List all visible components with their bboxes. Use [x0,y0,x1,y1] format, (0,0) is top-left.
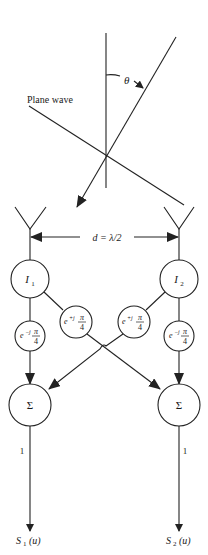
output-label-1: S 1 (u) [16,535,41,548]
butler-matrix-diagram: θ Plane wave d = λ/2 I 1 I 2 e −j π 4 [0,0,208,555]
svg-text:e: e [169,331,173,340]
gain-label-1: 1 [20,446,25,456]
phase-shifter-right-cross: e +j π 4 [118,306,150,338]
summer-node-1: Σ [9,384,51,426]
arrow-left-cross-to-sum2 [87,334,160,389]
plane-wave-geometry: θ Plane wave [27,33,184,207]
svg-text:4: 4 [80,323,84,332]
summer-node-2: Σ [158,384,200,426]
spacing-label: d = λ/2 [93,232,122,243]
phase-shifter-left-straight: e −j π 4 [15,321,45,351]
angle-pointer-arrow [134,81,143,88]
svg-text:S: S [166,535,171,546]
svg-text:(u): (u) [179,535,191,547]
element-node-I2: I 2 [160,260,198,298]
svg-text:2: 2 [180,280,184,288]
output-label-2: S 2 (u) [166,535,191,548]
svg-text:−j: −j [174,329,180,335]
gain-label-2: 1 [183,446,188,456]
angle-arc [106,75,120,76]
svg-text:1: 1 [23,540,27,548]
svg-text:4: 4 [34,337,38,346]
svg-text:S: S [16,535,21,546]
svg-text:4: 4 [183,337,187,346]
antenna-right-icon [164,207,194,260]
svg-text:e: e [122,317,126,326]
svg-text:4: 4 [138,323,142,332]
angle-label: θ [124,74,130,86]
svg-text:+j: +j [127,315,133,321]
svg-text:2: 2 [173,540,177,548]
svg-text:Σ: Σ [27,399,33,411]
svg-text:+j: +j [69,315,75,321]
arrow-right-cross-to-sum1 [49,334,123,389]
svg-text:e: e [20,331,24,340]
svg-text:Σ: Σ [176,399,182,411]
svg-text:−j: −j [25,329,31,335]
spacing-dimension: d = λ/2 [31,232,178,243]
svg-text:1: 1 [31,280,35,288]
phase-shifter-right-straight: e −j π 4 [164,321,194,351]
propagation-direction-arrow [77,37,176,207]
antenna-left-icon [15,207,46,260]
plane-wave-label: Plane wave [27,94,73,105]
phase-shifter-left-cross: e +j π 4 [60,306,92,338]
svg-text:(u): (u) [29,535,41,547]
link-I2-cross [146,292,165,310]
element-node-I1: I 1 [11,260,49,298]
svg-text:e: e [64,317,68,326]
link-I1-cross [44,292,63,310]
